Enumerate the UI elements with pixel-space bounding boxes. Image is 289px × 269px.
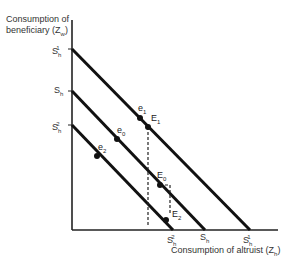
x-tick-sh: Sh — [200, 232, 209, 247]
point-E2 — [163, 217, 169, 223]
y-tick-sh: Sh — [54, 85, 63, 100]
x-axis-label: Consumption of altruist (Zh) — [171, 245, 280, 260]
label-e2: e2 — [98, 142, 106, 154]
label-E2: E2 — [172, 209, 181, 221]
point-E0 — [157, 182, 163, 188]
y-tick-sh2: Sh2 — [52, 119, 60, 137]
y-tick-sh1: Sh1 — [52, 43, 60, 61]
point-e2 — [94, 153, 100, 159]
point-e1 — [137, 115, 143, 121]
label-E0: E0 — [157, 170, 166, 182]
label-e1: e1 — [138, 103, 146, 115]
label-E1: E1 — [151, 113, 160, 125]
x-tick-sh2: Sh2 — [167, 232, 175, 250]
y-axis-label: Consumption of beneficiary (Zw) — [6, 14, 69, 40]
x-tick-sh1: Sh1 — [243, 232, 251, 250]
diagram-canvas — [0, 0, 289, 269]
label-e0: e0 — [117, 125, 125, 137]
point-e0 — [114, 136, 120, 142]
budget-line-sh1 — [72, 49, 250, 230]
point-E1 — [145, 124, 151, 130]
